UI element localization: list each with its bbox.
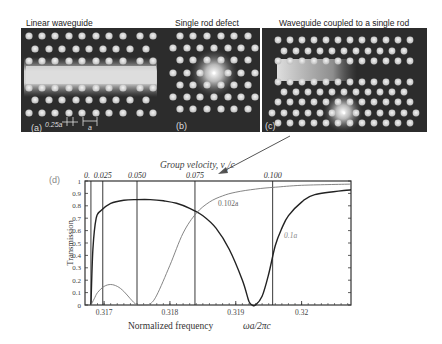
y-tick-label: 1 (78, 178, 82, 186)
x-tick-label: 0.317 (96, 308, 113, 317)
annotation-0-1a: 0.1a (284, 231, 297, 240)
x-tick-label: 0.32 (295, 308, 308, 317)
x-tick-label: 0.318 (161, 308, 178, 317)
transmission-chart: 00.10.20.30.40.50.60.70.80.910.3170.3180… (0, 0, 442, 344)
x-tick-label: 0.319 (227, 308, 244, 317)
top-axis-label: 0.075 (186, 171, 204, 180)
y-tick-label: 0.9 (72, 190, 81, 198)
y-tick-label: 0.8 (72, 202, 81, 210)
y-tick-label: 0 (78, 302, 82, 310)
top-axis-label: 0.100 (264, 171, 282, 180)
y-tick-label: 0.1 (72, 289, 81, 297)
x-axis-title: Normalized frequency (128, 321, 213, 331)
top-axis-label: 0.050 (128, 171, 146, 180)
y-axis-title: Transmission (65, 220, 75, 266)
top-axis-label: 0.025 (94, 171, 112, 180)
y-tick-label: 0.2 (72, 277, 81, 285)
x-axis-variable: ωa/2πc (243, 321, 272, 331)
annotation-0-102a: 0.102a (218, 199, 239, 208)
top-axis-label: 0. (84, 171, 90, 180)
